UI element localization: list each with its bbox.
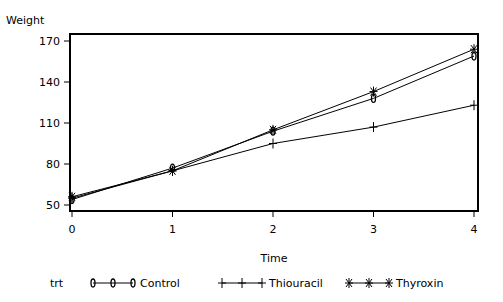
x-axis-label: Time (260, 252, 288, 265)
series-line-thyroxin (72, 49, 474, 197)
y-tick-label: 50 (46, 199, 60, 212)
x-tick-label: 4 (471, 223, 478, 236)
x-tick-label: 3 (370, 223, 377, 236)
chart: Weight508011014017001234TimetrtControlTh… (0, 0, 503, 302)
legend-label: Thiouracil (268, 277, 323, 290)
y-axis-label: Weight (6, 14, 45, 27)
y-tick-label: 140 (39, 76, 60, 89)
series-line-thiouracil (72, 105, 474, 198)
plot-frame (70, 34, 478, 211)
x-tick-label: 0 (69, 223, 76, 236)
y-tick-label: 80 (46, 158, 60, 171)
legend-title: trt (50, 277, 64, 290)
y-tick-label: 170 (39, 35, 60, 48)
legend-label: Thyroxin (395, 277, 443, 290)
y-tick-label: 110 (39, 117, 60, 130)
legend-label: Control (140, 277, 180, 290)
line-chart: Weight508011014017001234TimetrtControlTh… (0, 0, 503, 302)
x-tick-label: 2 (270, 223, 277, 236)
x-tick-label: 1 (169, 223, 176, 236)
